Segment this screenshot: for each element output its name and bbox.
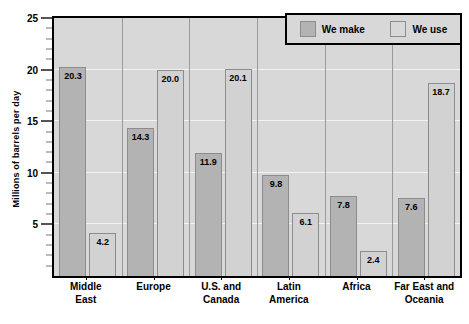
group-separator <box>189 18 190 276</box>
bar-value-label: 7.6 <box>399 202 424 212</box>
bar-value-label: 9.8 <box>263 179 288 189</box>
bar: 9.8 <box>262 175 289 276</box>
bar: 11.9 <box>195 153 222 276</box>
y-axis-tick-major <box>41 172 52 174</box>
y-axis-tick-label: 15 <box>27 116 38 127</box>
plot-area: 20.34.214.320.011.920.19.86.17.82.47.618… <box>52 16 462 278</box>
bar-value-label: 4.2 <box>90 237 115 247</box>
y-axis-tick-major <box>41 120 52 122</box>
bar: 20.3 <box>59 67 86 276</box>
bar-value-label: 14.3 <box>128 132 153 142</box>
bar: 4.2 <box>89 233 116 276</box>
y-axis-tick-major <box>41 69 52 71</box>
x-axis: MiddleEastEuropeU.S. andCanadaLatinAmeri… <box>52 280 462 324</box>
bar: 14.3 <box>127 128 154 276</box>
bar-value-label: 20.3 <box>60 71 85 81</box>
legend-swatch <box>390 21 406 37</box>
bar-value-label: 18.7 <box>429 87 454 97</box>
y-axis-tick-label: 10 <box>27 167 38 178</box>
x-axis-category-label: Far East andOceania <box>375 280 469 306</box>
legend-swatch <box>300 21 316 37</box>
legend-item: We make <box>300 21 365 37</box>
legend-item: We use <box>390 21 447 37</box>
bar-value-label: 20.0 <box>158 74 183 84</box>
legend-label: We use <box>412 24 447 35</box>
y-axis-tick-label: 5 <box>32 219 38 230</box>
bar: 7.6 <box>398 198 425 276</box>
group-separator <box>392 18 393 276</box>
bar: 6.1 <box>292 213 319 276</box>
group-separator <box>257 18 258 276</box>
bar-value-label: 6.1 <box>293 217 318 227</box>
bar: 18.7 <box>428 83 455 276</box>
y-axis-tick-label: 20 <box>27 64 38 75</box>
y-axis-tick-major <box>41 223 52 225</box>
bar-value-label: 2.4 <box>361 255 386 265</box>
bar-value-label: 7.8 <box>331 200 356 210</box>
bar: 20.1 <box>225 69 252 276</box>
y-axis-tick-major <box>41 17 52 19</box>
plot-inner: 20.34.214.320.011.920.19.86.17.82.47.618… <box>54 18 460 276</box>
y-axis: 510152025 <box>0 0 52 324</box>
bar-value-label: 20.1 <box>226 73 251 83</box>
bar: 20.0 <box>157 70 184 276</box>
bar: 2.4 <box>360 251 387 276</box>
y-axis-tick-label: 25 <box>27 13 38 24</box>
legend-label: We make <box>322 24 365 35</box>
bar: 7.8 <box>330 196 357 276</box>
group-separator <box>122 18 123 276</box>
bar-value-label: 11.9 <box>196 157 221 167</box>
bar-chart: Millions of barrels per day 510152025 20… <box>0 0 469 324</box>
chart-legend: We makeWe use <box>285 13 462 45</box>
group-separator <box>325 18 326 276</box>
